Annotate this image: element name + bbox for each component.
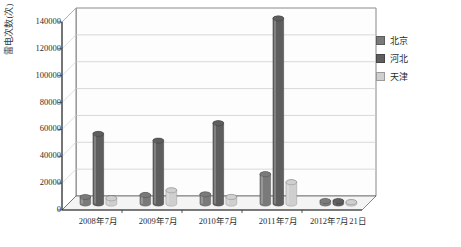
x-tick-label-4: 2012年7月21日 (300, 216, 376, 226)
bar-北京-2010年7月 (200, 192, 211, 207)
legend-label-2: 天津 (390, 70, 408, 83)
legend-item-1[interactable]: 河北 (376, 51, 456, 66)
bar-河北-2008年7月 (93, 131, 104, 206)
bar-河北-2009年7月 (153, 138, 164, 206)
bar-河北-2011年7月 (273, 16, 284, 207)
bar-北京-2008年7月 (80, 194, 91, 206)
legend-item-0[interactable]: 北京 (376, 33, 456, 48)
bar-河北-2012年7月21日 (333, 198, 344, 206)
bar-北京-2011年7月 (260, 172, 271, 207)
bar-北京-2012年7月21日 (320, 198, 331, 206)
legend-swatch-icon-1 (376, 54, 385, 63)
bar-天津-2012年7月21日 (346, 199, 357, 206)
bar-天津-2010年7月 (226, 194, 237, 206)
x-axis-tick-labels: 2008年7月2009年7月2010年7月2011年7月2012年7月21日 (0, 216, 461, 234)
legend-label-0: 北京 (390, 34, 408, 47)
legend-item-2[interactable]: 天津 (376, 69, 456, 84)
chart-legend: 北京 河北 天津 (376, 33, 456, 87)
legend-swatch-icon-0 (376, 36, 385, 45)
bar-天津-2008年7月 (106, 196, 117, 207)
legend-swatch-icon-2 (376, 72, 385, 81)
bar-天津-2011年7月 (286, 180, 297, 207)
lightning-count-bar-chart: 雷电次数(次) 14000012000010000080000600004000… (0, 0, 461, 247)
bar-天津-2009年7月 (166, 188, 177, 207)
bar-北京-2009年7月 (140, 192, 151, 206)
legend-label-1: 河北 (390, 52, 408, 65)
bar-河北-2010年7月 (213, 121, 224, 207)
